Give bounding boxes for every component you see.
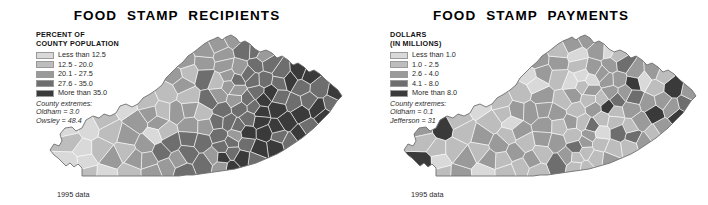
county	[46, 165, 97, 188]
county	[257, 28, 316, 62]
source-note-recipients: 1995 data	[57, 190, 89, 199]
county	[400, 28, 492, 121]
county	[677, 95, 700, 146]
kentucky-map-payments	[400, 28, 700, 188]
county	[400, 28, 433, 149]
county	[78, 90, 100, 141]
kentucky-map-recipients	[46, 28, 346, 188]
map-panel-recipients: FOOD STAMP RECIPIENTS PERCENT OF COUNTY …	[0, 0, 354, 205]
county	[46, 28, 79, 149]
county	[302, 28, 346, 84]
county	[116, 31, 183, 85]
map-panel-payments: FOOD STAMP PAYMENTS DOLLARS (IN MILLIONS…	[354, 0, 708, 205]
county-layer	[46, 28, 346, 188]
map-title-recipients: FOOD STAMP RECIPIENTS	[0, 8, 354, 23]
county	[656, 28, 700, 84]
county	[129, 53, 158, 110]
figure-root: FOOD STAMP RECIPIENTS PERCENT OF COUNTY …	[0, 0, 708, 205]
county-layer	[400, 28, 700, 188]
county	[470, 31, 537, 85]
county	[549, 56, 569, 70]
county	[323, 95, 346, 146]
county	[636, 132, 700, 189]
county	[644, 124, 700, 188]
county	[611, 28, 670, 62]
county	[653, 117, 700, 188]
county	[400, 150, 432, 188]
map-title-payments: FOOD STAMP PAYMENTS	[354, 8, 708, 23]
county	[299, 117, 346, 188]
county	[314, 109, 347, 188]
kentucky-choropleth-svg	[46, 28, 346, 188]
county	[432, 90, 454, 141]
county	[601, 152, 666, 188]
county	[63, 28, 195, 69]
county	[290, 124, 346, 188]
source-note-payments: 1995 data	[411, 190, 443, 199]
county	[282, 132, 346, 189]
county	[400, 165, 451, 188]
county	[195, 56, 215, 70]
county	[46, 28, 138, 121]
county	[520, 28, 569, 58]
county	[417, 28, 549, 69]
county	[247, 152, 312, 188]
county	[668, 109, 701, 188]
county	[166, 28, 215, 58]
county	[483, 53, 512, 110]
county	[46, 150, 78, 188]
kentucky-choropleth-svg	[400, 28, 700, 188]
